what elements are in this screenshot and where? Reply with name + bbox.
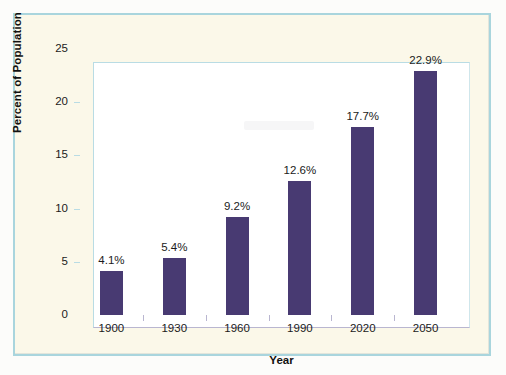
y-tick-label: 0 (42, 309, 68, 321)
bar (414, 71, 437, 315)
bar-value-label: 9.2% (202, 200, 272, 212)
bar-value-label: 17.7% (328, 110, 398, 122)
y-tick-mark (74, 155, 80, 156)
x-tick-mark (331, 315, 332, 321)
bar (226, 217, 249, 315)
x-tick-label: 2050 (396, 322, 456, 334)
bar (351, 127, 374, 315)
x-tick-label: 1900 (81, 322, 141, 334)
y-tick-label: 10 (42, 203, 68, 215)
y-tick-mark (74, 102, 80, 103)
print-artifact (244, 121, 314, 130)
x-tick-label: 1990 (270, 322, 330, 334)
x-tick-mark (143, 315, 144, 321)
y-tick-mark (74, 209, 80, 210)
bar-value-label: 5.4% (139, 241, 209, 253)
bar (100, 271, 123, 315)
x-tick-label: 1960 (207, 322, 267, 334)
y-tick-label: 15 (42, 149, 68, 161)
x-tick-label: 1930 (144, 322, 204, 334)
x-tick-label: 2020 (333, 322, 393, 334)
y-tick-label: 25 (42, 43, 68, 55)
figure-border-frame: Percent of Population Year 0510152025 19… (13, 13, 491, 356)
bar-value-label: 4.1% (76, 254, 146, 266)
bar (163, 258, 186, 315)
bar-value-label: 22.9% (391, 54, 461, 66)
bar-value-label: 12.6% (265, 164, 335, 176)
x-tick-mark (269, 315, 270, 321)
y-tick-label: 5 (42, 256, 68, 268)
y-axis-title: Percent of Population (11, 0, 23, 133)
x-axis-title: Year (93, 354, 470, 366)
y-tick-label: 20 (42, 96, 68, 108)
bar (288, 181, 311, 315)
x-tick-mark (206, 315, 207, 321)
x-tick-mark (394, 315, 395, 321)
chart-figure: Percent of Population Year 0510152025 19… (0, 0, 506, 375)
